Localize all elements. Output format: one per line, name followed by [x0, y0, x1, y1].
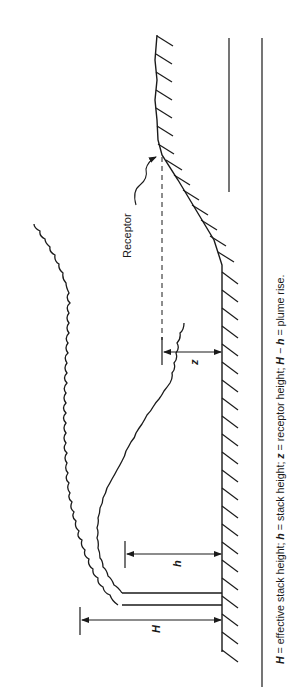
smoke-plume	[34, 224, 184, 605]
z-label: z	[188, 359, 200, 366]
caption-z-definition: = receptor height;	[274, 365, 286, 454]
caption-rise-definition: = plume rise.	[274, 275, 286, 339]
ground-terrain	[155, 35, 238, 662]
stack	[122, 593, 222, 605]
h-label: h	[171, 560, 183, 567]
receptor-pointer-arrow	[135, 157, 156, 205]
caption-minus: −	[274, 345, 286, 357]
plume-rise-diagram: Receptor H h z H = effective stack heigh…	[0, 0, 293, 687]
caption-h-definition: = stack height;	[274, 459, 286, 534]
receptor-label: Receptor	[121, 213, 133, 258]
H-label: H	[150, 624, 162, 633]
figure-caption: H = effective stack height; h = stack he…	[274, 275, 286, 664]
caption-H-definition: = effective stack height;	[274, 540, 286, 657]
ground-hatching	[156, 36, 238, 662]
